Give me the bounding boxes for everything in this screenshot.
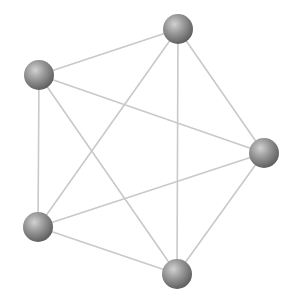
edge-n1-n4 — [38, 29, 178, 227]
edges-layer — [38, 29, 264, 274]
edge-n1-n2 — [39, 29, 178, 75]
edge-n2-n4 — [38, 75, 39, 227]
node-bottom — [162, 259, 192, 289]
node-lower-left — [23, 212, 53, 242]
node-right — [249, 138, 279, 168]
edge-n1-n3 — [178, 29, 264, 153]
edge-n3-n5 — [177, 153, 264, 274]
edge-n2-n5 — [39, 75, 177, 274]
node-upper-left — [24, 60, 54, 90]
nodes-layer — [23, 14, 279, 289]
complete-graph-diagram — [0, 0, 300, 304]
edge-n4-n5 — [38, 227, 177, 274]
edge-n1-n5 — [177, 29, 178, 274]
node-top — [163, 14, 193, 44]
edge-n2-n3 — [39, 75, 264, 153]
edge-n3-n4 — [38, 153, 264, 227]
